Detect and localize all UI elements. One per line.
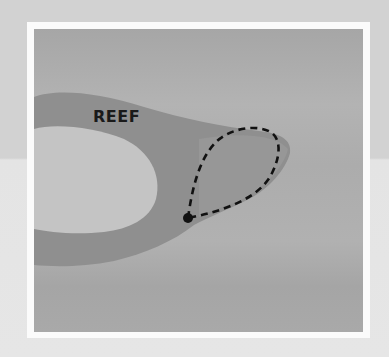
reef-label: REEF bbox=[93, 107, 140, 126]
reef-diagram bbox=[34, 29, 363, 332]
reef-map: REEF bbox=[34, 29, 363, 332]
loop-origin-dot bbox=[183, 213, 193, 223]
image-frame: REEF bbox=[27, 22, 370, 338]
